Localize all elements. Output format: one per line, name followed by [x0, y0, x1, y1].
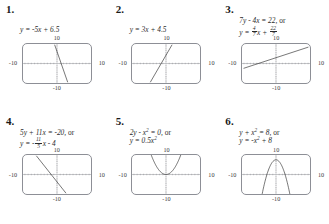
- graph-box: [131, 43, 201, 84]
- axis-label-left: -10: [118, 172, 126, 178]
- equation-line: y = 3x + 4.5: [130, 26, 218, 35]
- axis-label-bottom: -10: [53, 85, 61, 91]
- graph: 10-10-1010: [9, 35, 105, 91]
- axis-label-top: 10: [273, 147, 279, 153]
- graph: 10-10-1010: [228, 147, 324, 203]
- equation-text: or: [279, 16, 285, 25]
- problem-panel: 4.5y + 11x = -20, ory = -115x - 410-10-1…: [0, 112, 110, 224]
- graph: 10-10-1010: [118, 35, 214, 91]
- equation-block: y = -5x + 6.5: [20, 17, 108, 34]
- axis-label-bottom: -10: [162, 196, 170, 202]
- problem-panel: 1. y = -5x + 6.510-10-1010: [0, 0, 110, 112]
- axis-label-bottom: -10: [162, 85, 170, 91]
- axis-label-right: 10: [99, 60, 105, 66]
- equation-line: y = -5x + 6.5: [20, 26, 108, 35]
- axis-label-bottom: -10: [272, 85, 280, 91]
- axis-label-top: 10: [54, 35, 60, 41]
- axis-label-left: -10: [9, 60, 17, 66]
- equation-line: y = 47x + 227: [239, 26, 327, 35]
- problem-number: 2.: [116, 4, 218, 15]
- equation-line: y = 0.5x2: [130, 137, 218, 146]
- axis-label-left: -10: [228, 60, 236, 66]
- axis-label-left: -10: [9, 172, 17, 178]
- axis-label-left: -10: [118, 60, 126, 66]
- exercise-sheet: 1. y = -5x + 6.510-10-10102. y = 3x + 4.…: [0, 0, 329, 223]
- axis-label-right: 10: [318, 172, 324, 178]
- equation-line: y = -x2 + 8: [239, 137, 327, 146]
- axis-label-right: 10: [208, 60, 214, 66]
- exponent: 2: [154, 135, 157, 141]
- equation-line: 5y + 11x = -20, or: [20, 129, 108, 138]
- graph: 10-10-1010: [9, 147, 105, 203]
- equation-text: y = -5x + 6.5: [20, 25, 59, 34]
- equation-block: y = 3x + 4.5: [130, 17, 218, 34]
- equation-block: y + x2 = 8, ory = -x2 + 8: [239, 129, 327, 146]
- equation-text: or: [68, 128, 74, 137]
- equation-block: 2y - x2 = 0, ory = 0.5x2: [130, 129, 218, 146]
- equation-text: y = 3x + 4.5: [130, 25, 167, 34]
- problem-number: 1.: [6, 4, 108, 15]
- axis-label-right: 10: [99, 172, 105, 178]
- equation-text: + 8: [260, 136, 272, 145]
- problem-number: 4.: [6, 116, 108, 127]
- axis-label-top: 10: [273, 35, 279, 41]
- equation-block: 7y - 4x = 22, ory = 47x + 227: [239, 17, 327, 34]
- axis-label-bottom: -10: [53, 196, 61, 202]
- graph-box: [241, 43, 311, 84]
- equation-line: y = -115x - 4: [20, 137, 108, 146]
- equation-text: or: [273, 128, 279, 137]
- equation-text: y = -x: [239, 136, 257, 145]
- graph-box: [22, 154, 92, 195]
- graph: 10-10-1010: [118, 147, 214, 203]
- axis-label-top: 10: [54, 147, 60, 153]
- axis-label-bottom: -10: [272, 196, 280, 202]
- equation-text: 5y + 11x = -20,: [20, 128, 68, 137]
- axis-label-top: 10: [163, 35, 169, 41]
- problem-number: 3.: [225, 4, 327, 15]
- problem-panel: 3.7y - 4x = 22, ory = 47x + 22710-10-101…: [219, 0, 329, 112]
- problem-number: 5.: [116, 116, 218, 127]
- graph: 10-10-1010: [228, 35, 324, 91]
- graph-box: [22, 43, 92, 84]
- equation-text: y = 0.5x: [130, 136, 154, 145]
- problem-panel: 2. y = 3x + 4.510-10-1010: [110, 0, 220, 112]
- equation-text: or: [165, 128, 171, 137]
- problem-panel: 6.y + x2 = 8, ory = -x2 + 810-10-1010: [219, 112, 329, 224]
- axis-label-left: -10: [228, 172, 236, 178]
- equation-block: 5y + 11x = -20, ory = -115x - 4: [20, 129, 108, 146]
- fraction-numerator: 11: [35, 137, 42, 143]
- problem-panel: 5.2y - x2 = 0, ory = 0.5x210-10-1010: [110, 112, 220, 224]
- axis-label-top: 10: [163, 147, 169, 153]
- graph-box: [131, 154, 201, 195]
- axis-label-right: 10: [318, 60, 324, 66]
- equation-text: 7y - 4x = 22,: [239, 16, 279, 25]
- axis-label-right: 10: [208, 172, 214, 178]
- problem-number: 6.: [225, 116, 327, 127]
- graph-box: [241, 154, 311, 195]
